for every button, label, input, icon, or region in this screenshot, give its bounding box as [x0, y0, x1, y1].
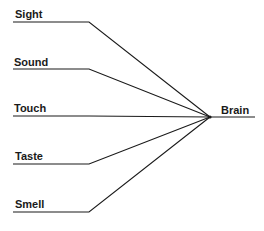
- label-smell: Smell: [15, 198, 44, 210]
- label-sight: Sight: [15, 8, 43, 20]
- label-taste: Taste: [15, 150, 43, 162]
- label-sound: Sound: [14, 56, 48, 68]
- label-brain: Brain: [221, 104, 249, 116]
- senses-to-brain-diagram: Sight Sound Touch Taste Smell Brain: [0, 0, 264, 231]
- label-touch: Touch: [14, 102, 46, 114]
- convergence-point: [208, 115, 211, 118]
- connector-line: [13, 116, 210, 117]
